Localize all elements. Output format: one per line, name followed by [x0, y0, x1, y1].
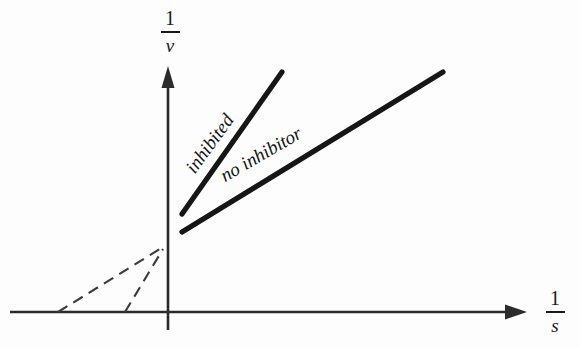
extrapolation-dashed-inhibited: [125, 249, 163, 312]
y-axis-label-denominator: v: [155, 36, 185, 55]
x-axis-arrow-icon: [505, 305, 527, 320]
extrapolation-dashed-no-inhibitor: [58, 247, 163, 312]
series-line-no-inhibitor: [182, 72, 443, 232]
x-axis-label-numerator: 1: [540, 288, 570, 309]
y-axis-label: 1 v: [155, 8, 185, 55]
x-axis-label: 1 s: [540, 288, 570, 335]
y-axis-label-fraction-bar: [161, 31, 180, 33]
y-axis-label-numerator: 1: [155, 8, 185, 29]
x-axis-label-fraction-bar: [546, 311, 565, 313]
plot-canvas: [0, 0, 580, 348]
x-axis-label-denominator: s: [540, 316, 570, 335]
lineweaver-burk-plot: 1 v 1 s inhibited no inhibitor: [0, 0, 580, 348]
y-axis-arrow-icon: [162, 66, 175, 88]
